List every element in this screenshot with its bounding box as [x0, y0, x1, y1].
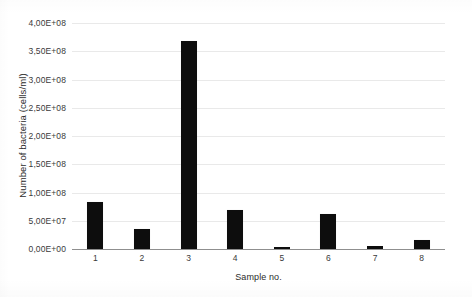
x-axis-title: Sample no.: [72, 272, 445, 282]
bar-slot: [398, 23, 445, 249]
bar-slot: [352, 23, 399, 249]
x-axis-tick-label: 4: [212, 253, 259, 269]
y-axis-tick-label: 2,00E+08: [29, 131, 66, 141]
y-axis-tick-label: 0,00E+00: [29, 244, 66, 254]
x-axis-tick-label: 7: [352, 253, 399, 269]
y-axis-tick-label: 3,50E+08: [29, 46, 66, 56]
y-axis-tick-label: 4,00E+08: [29, 18, 66, 28]
bar: [274, 247, 290, 249]
bar-slot: [305, 23, 352, 249]
x-axis-tick-label: 5: [259, 253, 306, 269]
y-axis-tick-label: 1,00E+08: [29, 188, 66, 198]
bar-slot: [165, 23, 212, 249]
bar: [367, 246, 383, 249]
x-axis-tick-label: 2: [119, 253, 166, 269]
x-axis-tick-label: 8: [398, 253, 445, 269]
bar: [227, 210, 243, 249]
bar: [414, 240, 430, 249]
y-axis-tick-label: 2,50E+08: [29, 103, 66, 113]
bar-series: [72, 23, 445, 249]
y-axis-tick-label: 3,00E+08: [29, 75, 66, 85]
plot-area: [72, 23, 445, 249]
bar-slot: [119, 23, 166, 249]
y-axis-tick-label: 1,50E+08: [29, 159, 66, 169]
bar-chart: Number of bacteria (cells/ml) 0,00E+005,…: [0, 0, 472, 297]
bar-slot: [212, 23, 259, 249]
y-axis-tick-label: 5,00E+07: [29, 216, 66, 226]
bar: [134, 229, 150, 249]
y-axis-tick-labels: 0,00E+005,00E+071,00E+081,50E+082,00E+08…: [0, 0, 70, 297]
x-axis-tick-label: 1: [72, 253, 119, 269]
bar: [320, 214, 336, 249]
bar: [87, 202, 103, 249]
bar-slot: [259, 23, 306, 249]
bar: [181, 41, 197, 249]
x-axis-tick-label: 6: [305, 253, 352, 269]
x-axis-tick-label: 3: [165, 253, 212, 269]
x-axis-tick-labels: 12345678: [72, 253, 445, 269]
bar-slot: [72, 23, 119, 249]
